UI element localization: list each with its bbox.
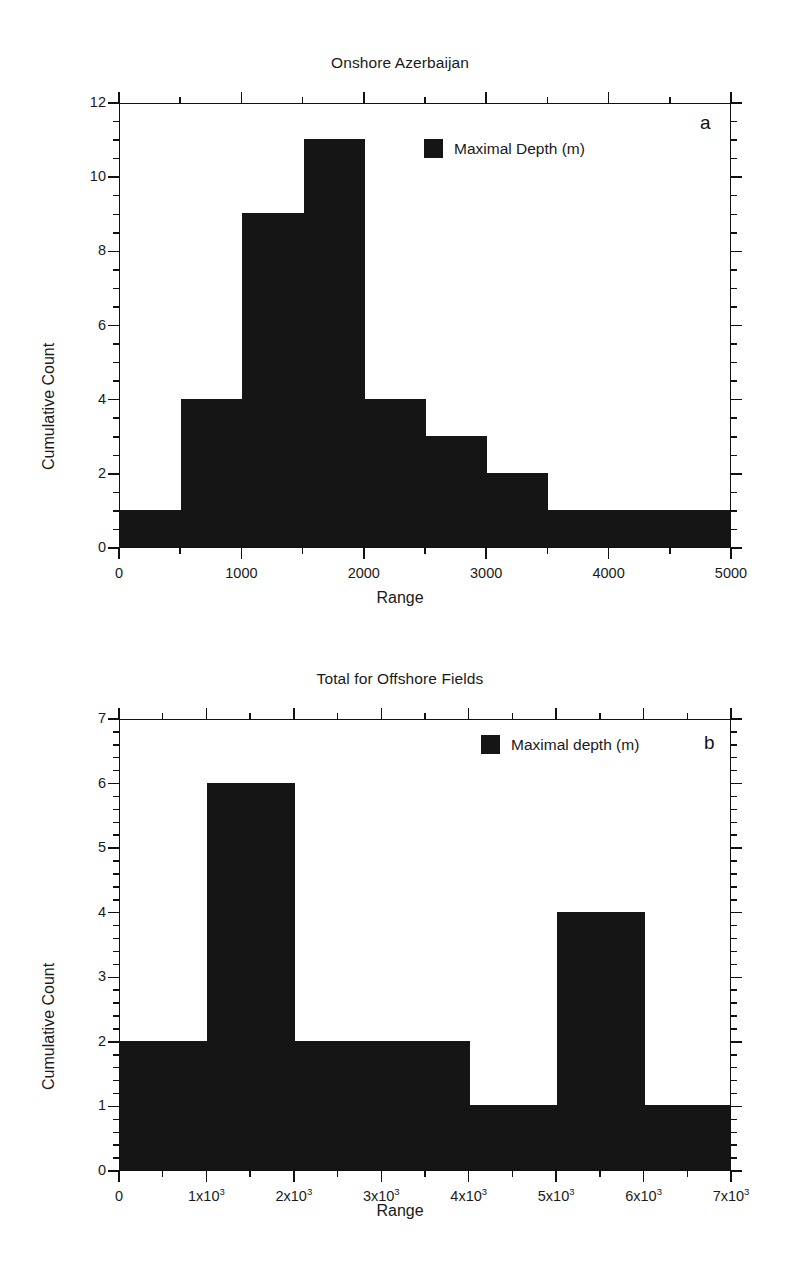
y-tick-label-b-4: 4 <box>46 904 106 920</box>
x-tick-top-a-1500 <box>302 97 304 103</box>
y-tick-right-b-1.2000000000000002 <box>731 1093 737 1095</box>
y-tick-left-b-2.8000000000000003 <box>113 989 119 991</box>
y-tick-left-a-0 <box>108 547 119 549</box>
y-tick-right-b-4 <box>731 912 742 914</box>
x-tick-top-b-500 <box>162 713 164 719</box>
legend-swatch-icon-b <box>481 735 500 754</box>
bar-a-3 <box>304 139 365 547</box>
y-tick-left-b-3.6 <box>113 938 119 940</box>
y-tick-left-b-4.800000000000001 <box>113 860 119 862</box>
x-tick-top-b-1000 <box>206 708 208 719</box>
y-tick-left-a-2 <box>108 473 119 475</box>
x-tick-top-b-3500 <box>424 713 426 719</box>
bar-b-2 <box>295 1041 382 1170</box>
y-tick-left-b-2.4000000000000004 <box>113 1015 119 1017</box>
x-tick-bottom-a-2500 <box>424 548 426 554</box>
y-tick-right-a-1.5 <box>731 492 737 494</box>
panel-letter-b: b <box>704 732 715 754</box>
x-tick-top-b-2000 <box>293 708 295 719</box>
y-tick-right-a-5 <box>731 362 737 364</box>
x-tick-top-b-5500 <box>599 713 601 719</box>
y-tick-right-b-5.6000000000000005 <box>731 809 737 811</box>
y-tick-right-b-4.800000000000001 <box>731 860 737 862</box>
y-tick-label-b-0: 0 <box>46 1162 106 1178</box>
y-tick-right-b-0.8 <box>731 1119 737 1121</box>
y-tick-right-b-1.4000000000000001 <box>731 1080 737 1082</box>
x-tick-bottom-a-500 <box>179 548 181 554</box>
y-tick-right-a-2 <box>731 473 742 475</box>
y-tick-label-b-1: 1 <box>46 1097 106 1113</box>
y-tick-right-a-10.5 <box>731 158 737 160</box>
y-tick-left-b-2.2 <box>113 1028 119 1030</box>
legend-label-b: Maximal depth (m) <box>511 736 639 754</box>
y-tick-left-b-6.800000000000001 <box>113 731 119 733</box>
bar-a-8 <box>610 510 671 547</box>
y-tick-left-a-6.5 <box>113 306 119 308</box>
x-tick-top-b-6500 <box>687 713 689 719</box>
y-tick-left-a-0.5 <box>113 529 119 531</box>
bar-b-6 <box>645 1105 730 1170</box>
y-tick-right-a-8.5 <box>731 232 737 234</box>
y-tick-right-a-11.5 <box>731 121 737 123</box>
y-tick-label-b-7: 7 <box>46 710 106 726</box>
y-tick-right-b-3 <box>731 977 742 979</box>
y-tick-left-b-6.4 <box>113 757 119 759</box>
y-tick-right-b-3.8000000000000003 <box>731 925 737 927</box>
y-tick-right-a-6 <box>731 325 742 327</box>
y-tick-right-a-7 <box>731 288 737 290</box>
y-tick-left-b-7 <box>108 718 119 720</box>
x-tick-top-a-1000 <box>241 92 243 103</box>
y-tick-label-a-4: 8 <box>46 242 106 258</box>
y-tick-left-b-3 <box>108 977 119 979</box>
y-tick-right-b-2 <box>731 1041 742 1043</box>
x-tick-bottom-a-3000 <box>485 548 487 559</box>
y-tick-left-a-4.5 <box>113 380 119 382</box>
y-tick-left-b-6.2 <box>113 770 119 772</box>
y-tick-left-b-0 <box>108 1170 119 1172</box>
y-tick-right-b-2.6 <box>731 1002 737 1004</box>
bar-b-4 <box>470 1105 557 1170</box>
y-tick-right-a-1 <box>731 510 737 512</box>
x-tick-top-b-6000 <box>643 708 645 719</box>
y-tick-right-a-9.5 <box>731 195 737 197</box>
y-tick-left-b-6.6000000000000005 <box>113 744 119 746</box>
x-axis-title-a: Range <box>0 589 800 607</box>
y-tick-right-b-3.6 <box>731 938 737 940</box>
y-tick-right-a-11 <box>731 139 737 141</box>
y-tick-label-a-3: 6 <box>46 317 106 333</box>
chart-panel-b: Total for Offshore Fields Cumulative Cou… <box>0 628 800 1228</box>
y-tick-left-a-10.5 <box>113 158 119 160</box>
figure-caption-strip <box>0 1232 800 1264</box>
y-tick-right-b-1.8 <box>731 1054 737 1056</box>
y-tick-right-b-5.4 <box>731 822 737 824</box>
bar-b-0 <box>120 1041 207 1170</box>
x-tick-bottom-b-1000 <box>206 1171 208 1182</box>
x-tick-bottom-a-1000 <box>241 548 243 559</box>
y-tick-left-b-1.4000000000000001 <box>113 1080 119 1082</box>
y-tick-right-b-7 <box>731 718 742 720</box>
y-tick-right-b-6.4 <box>731 757 737 759</box>
chart-title-b: Total for Offshore Fields <box>0 670 800 688</box>
y-tick-right-b-1 <box>731 1106 742 1108</box>
x-tick-label-a-1: 1000 <box>181 565 301 581</box>
bar-a-4 <box>365 399 426 547</box>
y-tick-label-b-3: 3 <box>46 968 106 984</box>
y-tick-left-b-5 <box>108 847 119 849</box>
legend-b: Maximal depth (m) <box>481 735 639 754</box>
y-tick-right-a-12 <box>731 102 742 104</box>
legend-a: Maximal Depth (m) <box>424 139 585 158</box>
bar-a-9 <box>671 510 730 547</box>
y-tick-left-b-4.6000000000000005 <box>113 873 119 875</box>
x-tick-bottom-a-0 <box>118 548 120 559</box>
y-tick-left-a-1.5 <box>113 492 119 494</box>
y-tick-left-a-5 <box>113 362 119 364</box>
x-tick-bottom-b-5500 <box>599 1171 601 1177</box>
bar-a-7 <box>548 510 609 547</box>
x-tick-bottom-b-1500 <box>249 1171 251 1177</box>
y-tick-left-a-10 <box>108 176 119 178</box>
y-tick-left-a-11.5 <box>113 121 119 123</box>
bar-a-0 <box>120 510 181 547</box>
x-tick-top-b-3000 <box>381 708 383 719</box>
y-tick-right-a-4 <box>731 399 742 401</box>
y-tick-left-a-9 <box>113 214 119 216</box>
